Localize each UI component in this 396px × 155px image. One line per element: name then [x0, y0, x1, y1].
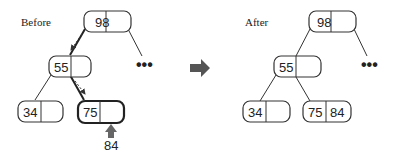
- edge-55-to-75-84: [296, 77, 310, 101]
- node-key: 98: [317, 15, 331, 30]
- node-key: 98: [95, 15, 109, 30]
- after-node-55: 55: [274, 56, 321, 77]
- node-key: 75: [83, 105, 97, 120]
- right-arrow-icon: [190, 59, 210, 77]
- node-key: 34: [248, 105, 262, 120]
- edge-root-to-55: [70, 29, 85, 55]
- after-panel: After 98 ••• 55 34 75: [243, 11, 378, 122]
- edge-root-to-ellipsis: [128, 29, 142, 56]
- before-label: Before: [21, 16, 51, 28]
- edge-55-to-34: [260, 75, 276, 101]
- edge-55-to-75: [70, 75, 84, 100]
- after-label: After: [245, 16, 269, 28]
- before-leaf-75-highlighted: 75: [78, 101, 124, 123]
- before-leaf-34: 34: [18, 101, 63, 122]
- b-tree-insertion-diagram: Before 98 ••• 55 34: [0, 0, 396, 155]
- node-key: 75: [308, 105, 322, 120]
- after-ellipsis: •••: [361, 56, 378, 73]
- node-key: 55: [279, 60, 293, 75]
- after-leaf-34: 34: [243, 101, 290, 122]
- after-root-node: 98: [309, 11, 356, 32]
- edge-root-to-ellipsis: [354, 29, 367, 56]
- node-key: 84: [330, 105, 344, 120]
- before-panel: Before 98 ••• 55 34: [18, 11, 153, 153]
- edge-root-to-55: [296, 29, 310, 56]
- edge-55-to-34: [35, 75, 51, 100]
- insert-up-arrow-icon: [105, 124, 117, 138]
- node-key: 34: [23, 105, 37, 120]
- node-key: 55: [54, 60, 68, 75]
- insert-value: 84: [104, 138, 118, 153]
- before-node-55: 55: [49, 56, 91, 77]
- before-ellipsis: •••: [136, 56, 153, 73]
- before-root-node: 98: [84, 11, 131, 32]
- after-leaf-75-84: 75 84: [303, 101, 351, 122]
